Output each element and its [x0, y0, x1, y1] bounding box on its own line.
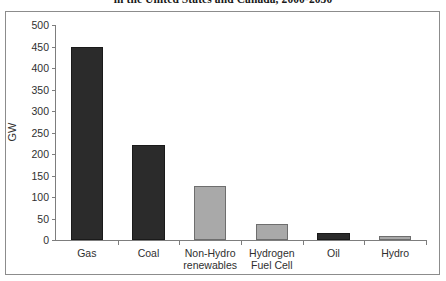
chart-title: in the United States and Canada, 2000-20… — [0, 0, 446, 5]
x-axis-tick-label: Non-Hydro renewables — [179, 247, 241, 271]
y-axis-title: GW — [6, 123, 18, 142]
bar — [194, 186, 226, 240]
bar — [317, 233, 349, 240]
y-axis-tick-mark — [52, 219, 56, 220]
x-axis-tick-mark — [241, 240, 242, 245]
x-axis-tick-label: Oil — [303, 247, 365, 259]
x-axis-tick-label: Hydro — [364, 247, 426, 259]
x-axis-tick-mark — [118, 240, 119, 245]
x-axis-tick-mark — [303, 240, 304, 245]
y-axis-tick-mark — [52, 197, 56, 198]
y-axis-tick-mark — [52, 25, 56, 26]
y-axis-tick-mark — [52, 240, 56, 241]
x-axis-tick-label: Coal — [118, 247, 180, 259]
bar-chart-figure: in the United States and Canada, 2000-20… — [0, 0, 446, 281]
y-axis-tick-mark — [52, 154, 56, 155]
y-axis-tick-mark — [52, 90, 56, 91]
y-axis-tick-mark — [52, 111, 56, 112]
y-axis-tick-mark — [52, 133, 56, 134]
bar — [379, 236, 411, 240]
y-axis-tick-mark — [52, 176, 56, 177]
x-axis-tick-mark — [426, 240, 427, 245]
bar — [71, 47, 103, 241]
x-axis-tick-mark — [179, 240, 180, 245]
y-axis-tick-mark — [52, 47, 56, 48]
x-axis-tick-label: Gas — [56, 247, 118, 259]
bar — [256, 224, 288, 240]
bar — [132, 145, 164, 240]
x-axis-tick-label: Hydrogen Fuel Cell — [241, 247, 303, 271]
plot-area: 500450400350300250200150100500 GasCoalNo… — [55, 25, 426, 241]
x-axis-tick-mark — [364, 240, 365, 245]
y-axis-tick-mark — [52, 68, 56, 69]
